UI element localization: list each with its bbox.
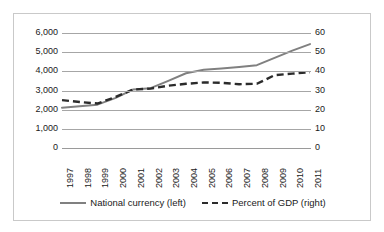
y-tick-label-left: 2,000 <box>35 105 58 114</box>
plot-area <box>62 33 311 148</box>
chart-legend: National currency (left) Percent of GDP … <box>14 198 372 208</box>
gridline <box>62 52 311 53</box>
x-axis: 1997199819992000200120022003200420052006… <box>62 150 311 194</box>
y-tick-label-right: 50 <box>315 47 325 56</box>
gridline <box>62 33 311 34</box>
x-tick-label: 2007 <box>243 168 252 188</box>
y-tick-label-left: 5,000 <box>35 47 58 56</box>
line-percent-of-gdp <box>62 72 310 103</box>
x-tick-label: 2001 <box>137 168 146 188</box>
x-tick-label: 2009 <box>279 168 288 188</box>
x-tick-label: 2008 <box>261 168 270 188</box>
y-tick-label-right: 30 <box>315 86 325 95</box>
x-tick-label: 2011 <box>314 169 323 188</box>
y-tick-label-left: 0 <box>53 143 58 152</box>
y-tick-label-right: 20 <box>315 105 325 114</box>
legend-label-percent-of-gdp: Percent of GDP (right) <box>232 198 326 208</box>
legend-item-national-currency: National currency (left) <box>60 198 186 208</box>
gridline <box>62 129 311 130</box>
y-tick-label-left: 6,000 <box>35 28 58 37</box>
x-tick-label: 2004 <box>190 168 199 188</box>
gridline <box>62 91 311 92</box>
x-tick-label: 1998 <box>84 168 93 188</box>
x-tick-label: 2000 <box>119 168 128 188</box>
y-axis-left: 01,0002,0003,0004,0005,0006,000 <box>14 33 58 148</box>
y-tick-label-right: 10 <box>315 124 325 133</box>
y-tick-label-left: 3,000 <box>35 86 58 95</box>
x-tick-label: 2002 <box>155 168 164 188</box>
x-tick-label: 1999 <box>101 168 110 188</box>
legend-item-percent-of-gdp: Percent of GDP (right) <box>202 198 326 208</box>
y-tick-label-left: 1,000 <box>35 124 58 133</box>
x-tick-label: 2010 <box>296 168 305 188</box>
x-tick-label: 2006 <box>225 168 234 188</box>
gridline <box>62 148 311 149</box>
y-tick-label-right: 0 <box>315 143 320 152</box>
legend-swatch-dashed-icon <box>202 202 228 204</box>
y-tick-label-left: 4,000 <box>35 66 58 75</box>
legend-label-national-currency: National currency (left) <box>90 198 186 208</box>
gridline <box>62 71 311 72</box>
x-tick-label: 2005 <box>208 168 217 188</box>
y-axis-right: 0102030405060 <box>315 33 355 148</box>
legend-swatch-solid-icon <box>60 202 86 204</box>
x-tick-label: 1997 <box>66 168 75 188</box>
chart-container: 01,0002,0003,0004,0005,0006,000 01020304… <box>13 13 371 221</box>
y-tick-label-right: 60 <box>315 28 325 37</box>
y-tick-label-right: 40 <box>315 66 325 75</box>
gridline <box>62 110 311 111</box>
x-tick-label: 2003 <box>172 168 181 188</box>
